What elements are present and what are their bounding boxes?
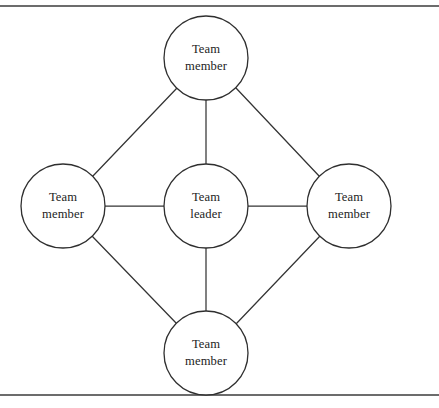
node-label-line1: Team <box>192 42 220 56</box>
node-label-line2: leader <box>190 207 222 221</box>
node-label-line1: Team <box>192 337 220 351</box>
edge-top-right <box>236 88 320 177</box>
node-label-line1: Team <box>49 190 77 204</box>
node-team-member-right: Team member <box>307 164 391 248</box>
node-label-line2: member <box>328 207 371 221</box>
node-label-line2: member <box>185 59 228 73</box>
node-label-line2: member <box>42 207 85 221</box>
team-structure-diagram: Team member Team member Team leader Team… <box>0 0 439 408</box>
node-team-member-left: Team member <box>21 164 105 248</box>
node-label-line1: Team <box>192 190 220 204</box>
edge-right-bottom <box>236 236 320 324</box>
node-label-line2: member <box>185 354 228 368</box>
node-team-leader-center: Team leader <box>164 164 248 248</box>
node-team-member-bottom: Team member <box>164 311 248 395</box>
edge-left-bottom <box>92 236 177 324</box>
figure-canvas: Team member Team member Team leader Team… <box>0 0 439 408</box>
node-label-line1: Team <box>335 190 363 204</box>
edge-top-left <box>92 88 177 177</box>
node-team-member-top: Team member <box>164 16 248 100</box>
node-group: Team member Team member Team leader Team… <box>21 16 391 395</box>
